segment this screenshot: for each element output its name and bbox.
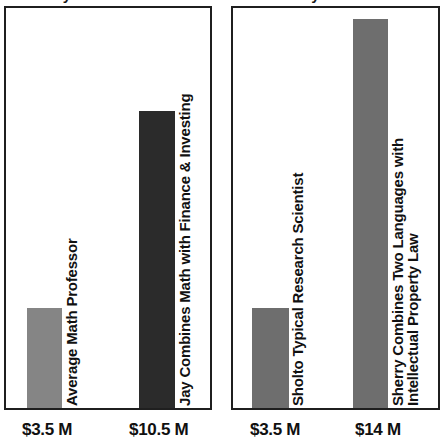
left-panel-truncated-title: Jay [46, 0, 71, 3]
right-chart-panel: Sholto Typical Research Scientist Sherry… [231, 6, 440, 410]
left-bar-average-math-professor[interactable] [27, 308, 62, 408]
right-bar-label-sherry-combines-two-languages: Sherry Combines Two Languages with Intel… [390, 60, 421, 406]
left-value-label-2: $10.5 M [129, 420, 188, 440]
left-plot-area: Average Math Professor Jay Combines Math… [6, 8, 210, 408]
left-chart-panel: Average Math Professor Jay Combines Math… [4, 6, 212, 410]
right-bar-sholto-typical-research-scientist[interactable] [252, 308, 289, 408]
right-value-label-2: $14 M [355, 420, 401, 440]
right-panel-truncated-title: Sherry [272, 0, 320, 3]
left-bar-label-jay-combines-math: Jay Combines Math with Finance & Investi… [177, 44, 192, 406]
left-bar-jay-combines-math[interactable] [139, 111, 175, 408]
right-bar-sherry-combines-two-languages[interactable] [353, 19, 388, 408]
left-bar-label-average-math-professor: Average Math Professor [64, 210, 79, 406]
right-value-label-1: $3.5 M [250, 420, 300, 440]
left-value-label-1: $3.5 M [22, 420, 72, 440]
right-plot-area: Sholto Typical Research Scientist Sherry… [233, 8, 438, 408]
right-bar-label-sholto-typical-research-scientist: Sholto Typical Research Scientist [290, 136, 305, 406]
